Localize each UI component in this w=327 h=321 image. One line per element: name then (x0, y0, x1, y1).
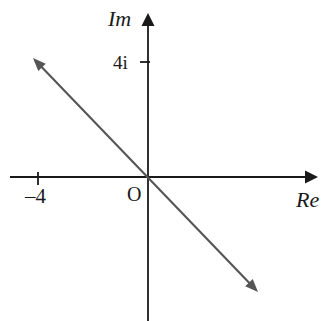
tick-label-4i: 4i (113, 52, 128, 73)
imaginary-axis-label: Im (107, 6, 131, 31)
complex-plane-svg: Im Re 4i –4 O (0, 0, 327, 321)
complex-plane-figure: Im Re 4i –4 O (0, 0, 327, 321)
tick-label-minus-4: –4 (24, 184, 47, 208)
real-axis-label: Re (295, 187, 319, 212)
imaginary-axis (142, 13, 155, 321)
origin-label: O (127, 183, 141, 205)
diagonal-line-segment (39, 64, 252, 285)
real-axis (10, 171, 318, 184)
complex-line-arrow (33, 58, 258, 292)
imaginary-axis-arrowhead (142, 13, 155, 26)
real-axis-arrowhead (305, 171, 318, 184)
